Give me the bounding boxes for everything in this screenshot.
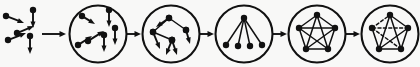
agent-dot xyxy=(30,7,36,13)
graph-edge xyxy=(390,15,401,49)
stage-agent-arrow xyxy=(106,7,112,27)
graph-node xyxy=(183,27,189,33)
graph-node xyxy=(223,42,229,48)
agent-dot xyxy=(106,7,112,13)
seed-agent-arrow xyxy=(3,13,24,23)
graph-node xyxy=(169,37,175,43)
graph-node xyxy=(166,15,172,21)
stage-boundary-circle xyxy=(216,6,273,63)
graph-node xyxy=(332,25,338,31)
agent-arrowhead xyxy=(102,46,107,53)
process-flow-diagram xyxy=(0,0,420,67)
agent-dot xyxy=(5,37,11,43)
agent-dot xyxy=(14,30,20,36)
graph-node xyxy=(247,43,253,49)
connector-stage-3-to-stage-4 xyxy=(273,31,287,37)
agent-arrowhead xyxy=(113,39,118,46)
agent-arrowhead xyxy=(28,48,33,55)
graph-node xyxy=(150,29,156,35)
connector-stage-4-to-stage-5 xyxy=(346,31,360,37)
graph-edge xyxy=(306,28,335,49)
seed-agent-arrow xyxy=(30,7,36,28)
agent-arrowhead xyxy=(107,21,112,28)
graph-node xyxy=(314,12,320,18)
connector-arrowhead xyxy=(60,31,67,37)
agent-arrowhead xyxy=(166,48,171,55)
graph-node xyxy=(325,46,331,52)
connector-arrowhead xyxy=(354,31,361,37)
graph-node xyxy=(303,46,309,52)
connector-seed-to-stage-1 xyxy=(42,31,66,37)
agent-arrowhead xyxy=(186,37,191,44)
graph-node xyxy=(369,25,375,31)
connector-arrowhead xyxy=(135,31,142,37)
graph-node xyxy=(241,15,247,21)
connector-stage-2-to-stage-3 xyxy=(200,31,214,37)
stage-dispersed[interactable] xyxy=(70,6,127,63)
stage-agent-arrow xyxy=(101,32,107,52)
stage-agent-arrow xyxy=(112,25,118,45)
graph-node xyxy=(405,25,411,31)
connector-arrowhead xyxy=(208,31,215,37)
connector-arrowhead xyxy=(281,31,288,37)
graph-node xyxy=(376,46,382,52)
seed-agent-arrow xyxy=(27,33,33,54)
graph-edge xyxy=(379,28,408,49)
agent-dot xyxy=(27,33,33,39)
graph-node xyxy=(259,42,265,48)
graph-node xyxy=(398,46,404,52)
agent-arrowhead xyxy=(155,42,160,49)
agent-dot xyxy=(112,25,118,31)
agent-arrowhead xyxy=(88,18,95,24)
agent-arrowhead xyxy=(17,18,24,23)
agent-arrowhead xyxy=(173,48,178,55)
stage-pruned-graph[interactable] xyxy=(362,6,419,63)
connector-stage-1-to-stage-2 xyxy=(127,31,141,37)
diagram-canvas xyxy=(0,0,420,67)
graph-node xyxy=(387,12,393,18)
graph-node xyxy=(235,43,241,49)
scattered-agents xyxy=(3,7,36,54)
stage-aggregating[interactable] xyxy=(143,6,200,63)
stage-star-tree[interactable] xyxy=(216,6,273,63)
stage-agent-arrow xyxy=(79,13,95,24)
graph-edge xyxy=(372,28,379,49)
graph-edge xyxy=(299,28,328,49)
graph-edge xyxy=(306,15,317,49)
graph-edge-dashed xyxy=(372,28,401,49)
graph-node xyxy=(296,25,302,31)
stage-complete-graph[interactable] xyxy=(289,6,346,63)
agent-dot xyxy=(3,13,9,19)
agent-dot xyxy=(101,32,107,38)
graph-edge xyxy=(379,15,390,49)
graph-edge xyxy=(317,15,328,49)
